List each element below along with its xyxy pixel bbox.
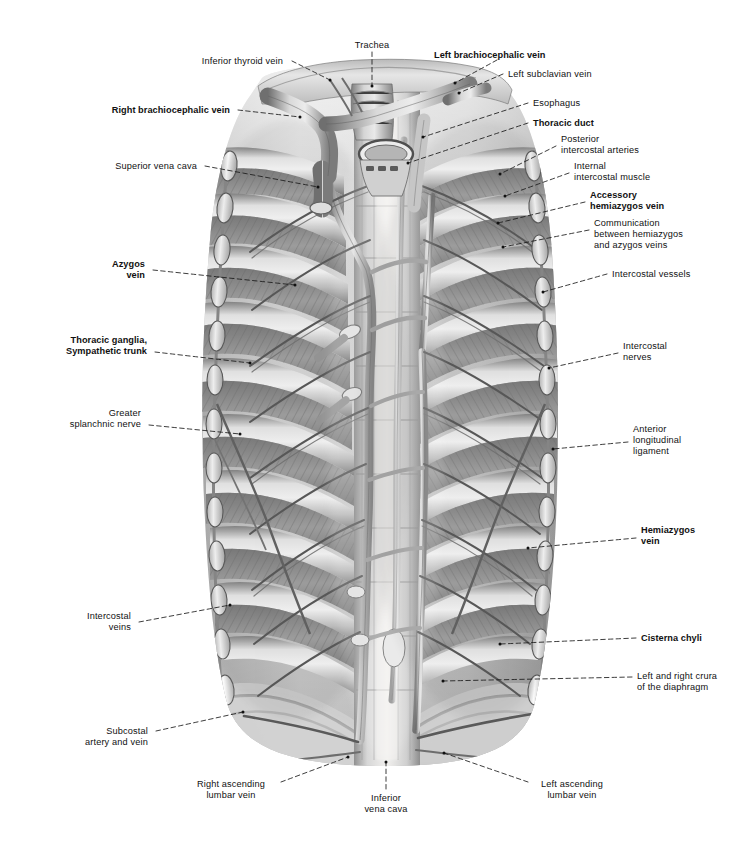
leader-endpoint-subcostal-artery-and-vein [242,711,245,714]
leader-endpoint-inferior-vena-cava [385,761,388,764]
label-posterior-intercostal-arteries: Posterior intercostal arteries [561,134,639,156]
label-thoracic-duct: Thoracic duct [533,118,594,129]
leader-anterior-longitudinal-ligament [553,442,628,449]
leader-endpoint-left-subclavian-vein [458,92,461,95]
leader-endpoint-posterior-intercostal-arteries [499,173,502,176]
label-superior-vena-cava: Superior vena cava [0,161,197,172]
label-right-brachiocephalic-vein: Right brachiocephalic vein [0,105,230,116]
label-thoracic-ganglia-sympathetic-trunk: Thoracic ganglia, Sympathetic trunk [0,335,147,357]
leader-endpoint-right-ascending-lumbar-vein [347,756,350,759]
leader-endpoint-intercostal-vessels [542,291,545,294]
label-left-and-right-crura: Left and right crura of the diaphragm [637,671,717,693]
leader-endpoint-intercostal-veins [229,604,232,607]
leader-endpoint-right-brachiocephalic-vein [299,116,302,119]
leader-endpoint-greater-splanchnic-nerve [239,433,242,436]
leader-endpoint-anterior-longitudinal-ligament [552,448,555,451]
leader-endpoint-thoracic-ganglia-sympathetic-trunk [249,362,252,365]
label-azygos-vein: Azygos vein [0,259,145,281]
label-intercostal-nerves: Intercostal nerves [623,341,667,363]
label-inferior-vena-cava: Inferior vena cava [296,793,476,815]
label-subcostal-artery-and-vein: Subcostal artery and vein [0,726,148,748]
label-communication-hemiazygos-azygos: Communication between hemiazygos and azy… [594,218,683,252]
leader-endpoint-inferior-thyroid-vein [329,79,332,82]
leader-subcostal-artery-and-vein [156,712,243,731]
label-greater-splanchnic-nerve: Greater splanchnic nerve [0,408,141,430]
leader-endpoint-left-and-right-crura [442,680,445,683]
leader-endpoint-superior-vena-cava [317,186,320,189]
leader-endpoint-internal-intercostal-muscle [504,195,507,198]
leader-endpoint-communication-hemiazygos-azygos [502,246,505,249]
leader-endpoint-trachea [371,85,374,88]
label-intercostal-vessels: Intercostal vessels [612,269,690,280]
anatomical-figure: Inferior thyroid veinTracheaLeft brachio… [0,0,736,845]
label-left-ascending-lumbar-vein: Left ascending lumbar vein [482,779,662,801]
leader-endpoint-thoracic-duct [407,162,410,165]
leader-endpoint-cisterna-chyli [499,643,502,646]
label-anterior-longitudinal-ligament: Anterior longitudinal ligament [633,424,681,458]
label-esophagus: Esophagus [533,98,580,109]
label-hemiazygos-vein: Hemiazygos vein [641,525,695,547]
label-internal-intercostal-muscle: Internal intercostal muscle [574,161,650,183]
leader-endpoint-hemiazygos-vein [527,547,530,550]
label-inferior-thyroid-vein: Inferior thyroid vein [0,56,283,67]
leader-endpoint-left-ascending-lumbar-vein [443,752,446,755]
leader-endpoint-intercostal-nerves [548,367,551,370]
label-left-brachiocephalic-vein: Left brachiocephalic vein [434,50,546,61]
leader-endpoint-left-brachiocephalic-vein [454,82,457,85]
label-cisterna-chyli: Cisterna chyli [641,633,702,644]
label-right-ascending-lumbar-vein: Right ascending lumbar vein [141,779,321,801]
leader-intercostal-nerves [549,353,618,368]
leader-endpoint-esophagus [422,136,425,139]
leader-endpoint-accessory-hemiazygos-vein [497,222,500,225]
label-left-subclavian-vein: Left subclavian vein [508,69,592,80]
leader-endpoint-azygos-vein [294,284,297,287]
label-intercostal-veins: Intercostal veins [0,611,131,633]
label-accessory-hemiazygos-vein: Accessory hemiazygos vein [590,190,664,212]
